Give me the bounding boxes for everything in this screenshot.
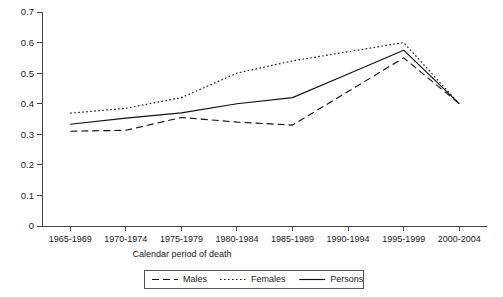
y-tick-label: 0.6	[21, 37, 34, 48]
legend-label-females: Females	[251, 274, 286, 284]
y-tick-label: 0.1	[21, 190, 34, 201]
legend-label-persons: Persons	[330, 274, 364, 284]
y-tick-label: 0.4	[21, 98, 34, 109]
x-tick-label: 1970-1974	[104, 234, 147, 244]
y-tick-label: 0.2	[21, 159, 34, 170]
x-tick-group: 1965-19691970-19741975-19791980-19841985…	[49, 226, 481, 244]
x-tick-label: 1965-1969	[49, 234, 92, 244]
series-line-females	[70, 43, 459, 114]
series-line-persons	[70, 50, 459, 124]
y-axis: 00.10.20.30.40.50.60.7	[21, 6, 43, 231]
y-tick-label: 0	[29, 220, 34, 231]
y-tick-group: 00.10.20.30.40.50.60.7	[21, 6, 43, 231]
series-line-males	[70, 58, 459, 131]
line-chart: 00.10.20.30.40.50.60.7 1965-19691970-197…	[0, 0, 503, 297]
y-tick-label: 0.3	[21, 129, 34, 140]
x-tick-label: 1985-1989	[271, 234, 314, 244]
y-tick-label: 0.7	[21, 6, 34, 17]
chart-legend: MalesFemalesPersons	[145, 271, 364, 289]
legend-label-males: Males	[183, 274, 208, 284]
x-tick-label: 2000-2004	[438, 234, 481, 244]
chart-container: 00.10.20.30.40.50.60.7 1965-19691970-197…	[0, 0, 503, 297]
y-tick-label: 0.5	[21, 68, 34, 79]
x-tick-label: 1990-1994	[327, 234, 370, 244]
x-axis: 1965-19691970-19741975-19791980-19841985…	[43, 226, 488, 244]
x-tick-label: 1980-1984	[215, 234, 258, 244]
x-axis-title: Calendar period of death	[132, 249, 231, 259]
x-tick-label: 1975-1979	[160, 234, 203, 244]
series-group	[70, 43, 459, 132]
x-tick-label: 1995-1999	[382, 234, 425, 244]
